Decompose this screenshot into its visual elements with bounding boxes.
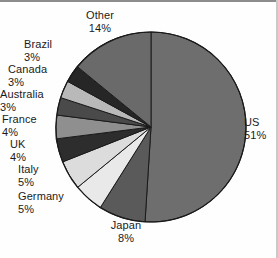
- pie-label-germany: Germany 5%: [18, 190, 82, 215]
- pie-label-france-name: France: [2, 113, 56, 126]
- pie-label-uk-value: 4%: [10, 151, 54, 164]
- pie-label-germany-name: Germany: [18, 190, 82, 203]
- pie-label-other-name: Other: [72, 9, 128, 22]
- pie-chart-figure: US 51% Japan 8% Germany 5% Italy 5% UK 4…: [0, 0, 278, 258]
- pie-label-italy: Italy 5%: [18, 163, 68, 188]
- pie-label-canada: Canada 3%: [8, 63, 64, 88]
- pie-label-italy-name: Italy: [18, 163, 68, 176]
- pie-label-other-value: 14%: [72, 22, 128, 35]
- pie-label-us: US 51%: [244, 116, 266, 141]
- pie-label-canada-value: 3%: [8, 76, 64, 89]
- pie-slices: [56, 32, 246, 222]
- pie-label-brazil-name: Brazil: [24, 38, 78, 51]
- pie-label-australia-name: Australia: [0, 88, 60, 101]
- pie-slice-us: [145, 32, 246, 222]
- pie-label-us-value: 51%: [244, 129, 266, 142]
- pie-label-germany-value: 5%: [18, 203, 82, 216]
- pie-label-us-name: US: [244, 116, 266, 129]
- pie-label-france-value: 4%: [2, 126, 56, 139]
- pie-label-uk-name: UK: [10, 138, 54, 151]
- pie-label-japan-name: Japan: [96, 219, 156, 232]
- pie-label-canada-name: Canada: [8, 63, 64, 76]
- pie-label-brazil-value: 3%: [24, 51, 78, 64]
- pie-label-australia: Australia 3%: [0, 88, 60, 113]
- pie-label-other: Other 14%: [72, 9, 128, 34]
- pie-label-uk: UK 4%: [10, 138, 54, 163]
- pie-label-australia-value: 3%: [0, 101, 60, 114]
- pie-label-france: France 4%: [2, 113, 56, 138]
- pie-label-brazil: Brazil 3%: [24, 38, 78, 63]
- pie-label-japan: Japan 8%: [96, 219, 156, 244]
- pie-label-japan-value: 8%: [96, 232, 156, 245]
- pie-label-italy-value: 5%: [18, 176, 68, 189]
